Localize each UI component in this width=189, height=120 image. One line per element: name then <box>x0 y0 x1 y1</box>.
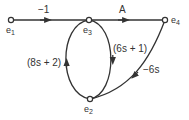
edge-gain-e3-e4: A <box>119 4 126 15</box>
node-subscript: 3 <box>88 29 92 36</box>
node-circle-icon <box>162 17 167 22</box>
node-e1: e1 <box>6 17 15 36</box>
node-circle-icon <box>8 17 13 22</box>
node-e4: e4 <box>162 15 180 26</box>
svg-text:e1: e1 <box>6 25 15 36</box>
svg-text:e3: e3 <box>83 25 92 36</box>
node-subscript: 1 <box>11 29 15 36</box>
edge-gain-e1-e3: −1 <box>38 4 50 15</box>
signal-flow-graph: −1 A (8s + 2) (6s + 1) −6s e1 e3 e4 e2 <box>0 0 189 120</box>
edge-gain-e3-e2: (6s + 1) <box>113 43 147 54</box>
edge-e3-e4: A <box>89 4 165 20</box>
node-subscript: 2 <box>89 108 93 115</box>
node-circle-icon <box>86 17 91 22</box>
edge-gain-e2-e3: (8s + 2) <box>27 57 61 68</box>
edge-e2-e3: (8s + 2) <box>27 20 90 99</box>
node-e2: e2 <box>84 96 93 115</box>
edge-e1-e3: −1 <box>11 4 89 20</box>
svg-text:e4: e4 <box>171 15 180 26</box>
edge-gain-e4-e2: −6s <box>143 64 159 75</box>
svg-text:e2: e2 <box>84 104 93 115</box>
node-subscript: 4 <box>176 19 180 26</box>
edge-e4-e2: −6s <box>90 20 165 99</box>
node-circle-icon <box>87 96 92 101</box>
